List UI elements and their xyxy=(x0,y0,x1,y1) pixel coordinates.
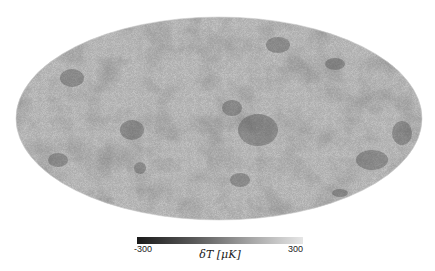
colorbar-min-label: -300 xyxy=(134,244,152,254)
colorbar-max-label: 300 xyxy=(288,244,303,254)
colorbar xyxy=(137,237,303,244)
map-ellipse xyxy=(0,0,435,230)
colorbar-axis-label: δT [μK] xyxy=(180,248,260,261)
sky-map xyxy=(0,0,435,230)
